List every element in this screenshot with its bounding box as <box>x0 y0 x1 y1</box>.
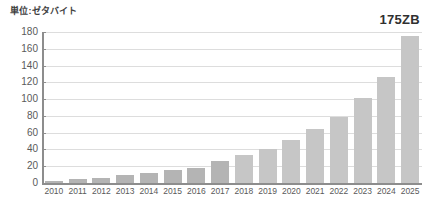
x-tick-label-2024: 2024 <box>375 186 399 196</box>
bar-2013 <box>116 175 134 183</box>
bar-slot-2017 <box>208 32 232 183</box>
plot-area <box>42 32 422 183</box>
bar-2018 <box>235 155 253 183</box>
y-tick-mark-20 <box>42 166 46 167</box>
y-tick-mark-160 <box>42 49 46 50</box>
bar-slot-2018 <box>232 32 256 183</box>
bar-2014 <box>140 173 158 183</box>
x-tick-label-2010: 2010 <box>42 186 66 196</box>
bar-2010 <box>45 181 63 183</box>
bar-2017 <box>211 161 229 183</box>
bar-slot-2016 <box>185 32 209 183</box>
x-axis-tick-labels: 2010201120122013201420152016201720182019… <box>42 186 422 196</box>
bar-2023 <box>354 98 372 183</box>
bar-slot-2013 <box>113 32 137 183</box>
x-tick-label-2019: 2019 <box>256 186 280 196</box>
y-tick-mark-0 <box>42 183 46 184</box>
bar-slot-2019 <box>256 32 280 183</box>
y-tick-label-20: 20 <box>27 161 38 171</box>
x-tick-label-2020: 2020 <box>280 186 304 196</box>
y-tick-label-100: 100 <box>21 94 38 104</box>
bar-2015 <box>164 170 182 183</box>
bar-slot-2024 <box>375 32 399 183</box>
y-tick-label-40: 40 <box>27 144 38 154</box>
y-tick-mark-40 <box>42 149 46 150</box>
x-tick-label-2012: 2012 <box>90 186 114 196</box>
y-tick-mark-120 <box>42 82 46 83</box>
y-tick-label-180: 180 <box>21 27 38 37</box>
y-tick-label-0: 0 <box>32 178 38 188</box>
bar-2021 <box>306 129 324 183</box>
x-tick-label-2013: 2013 <box>113 186 137 196</box>
x-tick-label-2014: 2014 <box>137 186 161 196</box>
y-tick-mark-80 <box>42 116 46 117</box>
bar-slot-2025 <box>398 32 422 183</box>
x-tick-label-2021: 2021 <box>303 186 327 196</box>
y-tick-label-120: 120 <box>21 77 38 87</box>
y-tick-mark-100 <box>42 99 46 100</box>
y-tick-label-80: 80 <box>27 111 38 121</box>
x-tick-label-2016: 2016 <box>185 186 209 196</box>
x-tick-label-2022: 2022 <box>327 186 351 196</box>
bar-2012 <box>92 178 110 183</box>
x-tick-label-2015: 2015 <box>161 186 185 196</box>
bar-2024 <box>377 77 395 183</box>
bar-series <box>42 32 422 183</box>
bar-2020 <box>282 140 300 183</box>
bar-slot-2010 <box>42 32 66 183</box>
bar-slot-2012 <box>90 32 114 183</box>
x-tick-label-2011: 2011 <box>66 186 90 196</box>
y-axis-tick-labels: 180160140120100806040200 <box>0 32 38 183</box>
x-tick-label-2025: 2025 <box>398 186 422 196</box>
peak-value-annotation: 175ZB <box>379 12 420 27</box>
bar-chart: 単位:ゼタバイト 175ZB 180160140120100806040200 … <box>0 0 428 211</box>
bar-slot-2021 <box>303 32 327 183</box>
bar-2022 <box>330 117 348 183</box>
x-tick-label-2018: 2018 <box>232 186 256 196</box>
y-tick-label-160: 160 <box>21 44 38 54</box>
x-tick-label-2017: 2017 <box>208 186 232 196</box>
bar-slot-2022 <box>327 32 351 183</box>
bar-2011 <box>69 179 87 183</box>
bar-2019 <box>259 149 277 183</box>
bar-slot-2011 <box>66 32 90 183</box>
y-tick-label-60: 60 <box>27 128 38 138</box>
bar-slot-2015 <box>161 32 185 183</box>
bar-2025 <box>401 36 419 183</box>
x-tick-label-2023: 2023 <box>351 186 375 196</box>
bar-slot-2023 <box>351 32 375 183</box>
bar-slot-2020 <box>280 32 304 183</box>
gridline-0 <box>42 183 422 185</box>
bar-2016 <box>187 168 205 183</box>
y-tick-mark-140 <box>42 66 46 67</box>
y-tick-mark-60 <box>42 133 46 134</box>
chart-unit-caption: 単位:ゼタバイト <box>10 4 78 17</box>
y-tick-mark-180 <box>42 32 46 33</box>
y-tick-label-140: 140 <box>21 61 38 71</box>
bar-slot-2014 <box>137 32 161 183</box>
